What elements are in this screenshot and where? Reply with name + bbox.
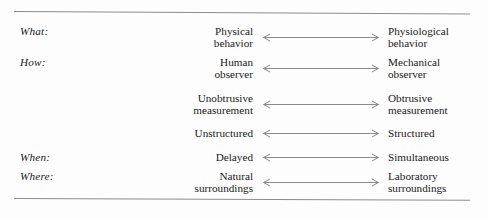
right-pole-structured: Structured [388,127,435,139]
row-keyword-how: How: [20,56,46,68]
top-horizontal-rule [14,11,470,14]
right-pole-physiological-behavior: Physiological behavior [388,25,449,49]
right-pole-line-1: Structured [388,127,435,139]
double-headed-arrow-icon [261,178,381,187]
double-headed-arrow-icon [261,33,381,42]
right-pole-line-2: surroundings [388,182,446,194]
left-pole-line-1: Physical [214,25,253,37]
left-pole-human-observer: Human observer [214,56,253,80]
right-pole-mechanical-observer: Mechanical observer [388,56,440,80]
left-pole-unstructured: Unstructured [195,127,253,139]
double-headed-arrow-icon [261,64,381,73]
left-pole-delayed: Delayed [216,151,253,163]
left-pole-physical-behavior: Physical behavior [214,25,253,49]
left-pole-natural-surroundings: Natural surroundings [195,170,253,194]
right-pole-line-1: Mechanical [388,56,440,68]
right-pole-simultaneous: Simultaneous [388,151,449,163]
left-pole-line-1: Delayed [216,151,253,163]
right-pole-obtrusive-measurement: Obtrusive measurement [388,92,448,116]
right-pole-line-2: behavior [388,37,449,49]
left-pole-line-1: Unobtrusive [193,92,253,104]
left-pole-line-1: Unstructured [195,127,253,139]
left-pole-line-2: behavior [214,37,253,49]
right-pole-laboratory-surroundings: Laboratory surroundings [388,170,446,194]
row-keyword-where: Where: [20,170,54,182]
left-pole-line-2: measurement [193,104,253,116]
right-pole-line-1: Physiological [388,25,449,37]
left-pole-line-2: surroundings [195,182,253,194]
left-pole-unobtrusive-measurement: Unobtrusive measurement [193,92,253,116]
right-pole-line-2: observer [388,68,440,80]
left-pole-line-1: Natural [195,170,253,182]
left-pole-line-2: observer [214,68,253,80]
right-pole-line-1: Laboratory [388,170,446,182]
right-pole-line-2: measurement [388,104,448,116]
double-headed-arrow-icon [261,129,381,138]
double-headed-arrow-icon [261,100,381,109]
row-keyword-when: When: [20,151,50,163]
bottom-horizontal-rule [14,198,470,201]
right-pole-line-1: Simultaneous [388,151,449,163]
double-headed-arrow-icon [261,153,381,162]
row-keyword-what: What: [20,25,48,37]
left-pole-line-1: Human [214,56,253,68]
observation-dimensions-figure: What: Physical behavior Physiological be… [0,0,487,218]
right-pole-line-1: Obtrusive [388,92,448,104]
